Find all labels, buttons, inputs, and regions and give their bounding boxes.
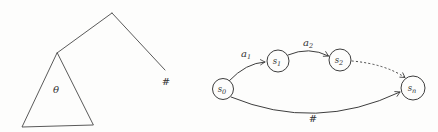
- state-s2-label-sub: 2: [338, 59, 343, 67]
- edge-hash-label: #: [309, 113, 317, 124]
- tree-root-right-edge: [112, 13, 165, 70]
- state-s1-label-sub: 1: [277, 60, 281, 68]
- figure-canvas: θ # s0 s1 s2 sn a1 a2 #: [0, 0, 438, 132]
- tree-hash-label: #: [162, 76, 170, 87]
- automaton-diagram: s0 s1 s2 sn a1 a2 #: [213, 37, 426, 124]
- edge-s0-s1: [229, 62, 265, 81]
- state-s0-label-sub: 0: [222, 88, 226, 96]
- tree-theta-label: θ: [53, 84, 59, 95]
- tree-diagram: θ #: [22, 13, 170, 127]
- edge-a1-label-sub: 1: [247, 53, 251, 61]
- edge-a2-label: a2: [303, 37, 313, 50]
- edge-a2-label-sub: 2: [308, 42, 313, 50]
- tree-root-left-edge: [57, 13, 112, 53]
- state-sn-label-sub: n: [412, 87, 416, 95]
- edge-s0-sn: [231, 92, 400, 113]
- edge-a1-label: a1: [241, 48, 251, 61]
- figure-svg: θ # s0 s1 s2 sn a1 a2 #: [0, 0, 438, 132]
- edge-s2-sn-dotted: [352, 61, 405, 78]
- edge-s1-s2: [288, 51, 329, 56]
